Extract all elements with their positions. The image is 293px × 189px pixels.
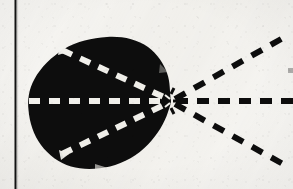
clipped-dash-right-edge [288, 68, 293, 73]
figure-canvas [0, 0, 293, 189]
diagram-svg [0, 0, 293, 189]
